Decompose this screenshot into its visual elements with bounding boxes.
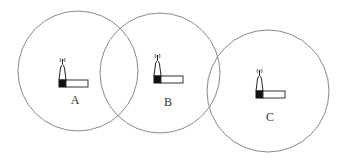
diagram-svg: ABC (0, 0, 346, 161)
station-label-b: B (164, 95, 172, 109)
tower-base-block (256, 91, 263, 98)
base-station-b: B (154, 54, 183, 109)
base-stations: ABC (59, 54, 285, 124)
coverage-diagram: ABC (0, 0, 346, 161)
equipment-box (66, 80, 88, 87)
equipment-box (161, 76, 183, 83)
equipment-box (263, 91, 285, 98)
station-label-a: A (71, 93, 80, 107)
tower-base-block (154, 76, 161, 83)
antenna-signal-icon (257, 69, 262, 75)
coverage-circle-a (18, 11, 138, 131)
base-station-c: C (256, 69, 285, 124)
tower-icon (154, 61, 161, 77)
base-station-a: A (59, 58, 88, 107)
tower-icon (59, 65, 66, 81)
tower-icon (256, 76, 263, 92)
antenna-signal-icon (60, 58, 65, 64)
station-label-c: C (266, 110, 274, 124)
antenna-signal-icon (155, 54, 160, 60)
tower-base-block (59, 80, 66, 87)
